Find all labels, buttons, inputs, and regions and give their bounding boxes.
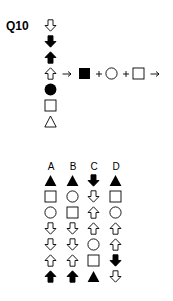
outline-arrow-down-icon [87, 190, 100, 203]
outline-arrow-up-icon [44, 254, 57, 267]
outline-arrow-down-icon [44, 19, 57, 32]
outline-arrow-down-icon [66, 222, 79, 235]
outline-circle-icon [66, 190, 79, 203]
option-label-c[interactable]: C [87, 161, 101, 172]
filled-arrow-up-icon [44, 270, 57, 283]
plus-icon [94, 67, 104, 80]
outline-arrow-down-icon [109, 270, 122, 283]
option-label-b[interactable]: B [66, 161, 80, 172]
outline-triangle-icon [44, 115, 57, 128]
filled-arrow-up-icon [66, 270, 79, 283]
filled-circle-icon [44, 83, 57, 96]
outline-square-icon [132, 67, 145, 80]
filled-triangle-icon [87, 270, 100, 283]
outline-circle-icon [105, 67, 118, 80]
outline-arrow-up-icon [109, 222, 122, 235]
filled-triangle-icon [66, 174, 79, 187]
outline-arrow-up-icon [87, 206, 100, 219]
outline-arrow-up-icon [44, 67, 57, 80]
filled-square-icon [78, 67, 91, 80]
outline-square-icon [44, 99, 57, 112]
outline-square-icon [87, 254, 100, 267]
outline-arrow-down-icon [44, 222, 57, 235]
filled-arrow-up-icon [44, 51, 57, 64]
outline-circle-icon [87, 238, 100, 251]
outline-arrow-down-icon [44, 238, 57, 251]
arrow-right-icon [150, 67, 160, 80]
filled-triangle-icon [109, 174, 122, 187]
option-label-a[interactable]: A [44, 161, 58, 172]
outline-arrow-up-icon [87, 222, 100, 235]
outline-arrow-down-icon [66, 238, 79, 251]
filled-arrow-down-icon [109, 254, 122, 267]
outline-arrow-up-icon [66, 254, 79, 267]
outline-circle-icon [44, 206, 57, 219]
outline-arrow-up-icon [109, 238, 122, 251]
question-label: Q10 [6, 19, 29, 33]
filled-arrow-down-icon [44, 35, 57, 48]
option-label-d[interactable]: D [109, 161, 123, 172]
arrow-right-icon [62, 67, 72, 80]
filled-arrow-down-icon [87, 174, 100, 187]
filled-triangle-icon [44, 174, 57, 187]
outline-circle-icon [109, 206, 122, 219]
outline-square-icon [44, 190, 57, 203]
outline-square-icon [66, 206, 79, 219]
plus-icon [121, 67, 131, 80]
outline-square-icon [109, 190, 122, 203]
